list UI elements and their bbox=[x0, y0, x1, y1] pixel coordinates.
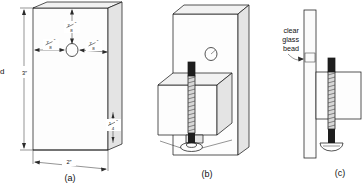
clear-glass-bead-annotation: clear glass bead bbox=[282, 26, 304, 62]
side-board bbox=[304, 10, 316, 158]
screw-upper-shank bbox=[188, 62, 195, 76]
left-clipped-text: d bbox=[0, 67, 4, 76]
bead-screw-lower-shank bbox=[328, 129, 335, 143]
panel-a: 7 8 ″ 7 8 ″ 7 bbox=[18, 2, 122, 183]
dim-height-label: 3″ bbox=[18, 66, 31, 78]
mount-board-top-face bbox=[173, 5, 249, 14]
dim-width-arrow-left bbox=[34, 161, 40, 165]
glass-bead-label-line-1: clear bbox=[283, 26, 299, 35]
bead-screw-head bbox=[320, 143, 343, 151]
dim-width-label: 2″ bbox=[62, 155, 76, 166]
screw-threaded-body bbox=[188, 76, 195, 133]
mount-board-side-face bbox=[238, 5, 249, 155]
dim-height-value: 3″ bbox=[22, 70, 27, 76]
panel-b-label: (b) bbox=[202, 169, 213, 179]
dim-thickness-label: 1 4 ″ bbox=[106, 119, 121, 131]
dim-left-offset-label: 7 8 ″ bbox=[43, 38, 59, 50]
screw-lower-shank bbox=[188, 133, 195, 143]
dim-top-offset-label: 7 8 ″ bbox=[64, 21, 80, 33]
dim-width-value: 2″ bbox=[66, 159, 71, 165]
assembly-diagram-svg: d 7 8 ″ bbox=[0, 0, 363, 186]
panel-b: (b) bbox=[158, 5, 249, 179]
glass-bead-label-line-3: bead bbox=[283, 44, 299, 53]
glass-bead-label-line-2: glass bbox=[282, 35, 299, 44]
dim-height-arrow-top bbox=[22, 9, 26, 15]
figure-root: d 7 8 ″ bbox=[0, 0, 363, 186]
dim-height-arrow-bottom bbox=[22, 143, 26, 149]
panel-c: clear glass bead (c) bbox=[282, 10, 361, 178]
dim-width-arrow-right bbox=[101, 168, 107, 172]
block-front-face bbox=[158, 85, 217, 135]
dim-right-offset-label: 7 8 ″ bbox=[86, 39, 102, 51]
panel-a-label: (a) bbox=[65, 173, 76, 183]
board-top-face bbox=[33, 2, 122, 8]
panel-c-label: (c) bbox=[335, 168, 346, 178]
block-section bbox=[316, 72, 361, 119]
bead-screw-upper-shank bbox=[328, 58, 335, 72]
bead-screw-threaded-body bbox=[328, 72, 335, 129]
glass-bead-leader-arrow bbox=[298, 57, 304, 62]
